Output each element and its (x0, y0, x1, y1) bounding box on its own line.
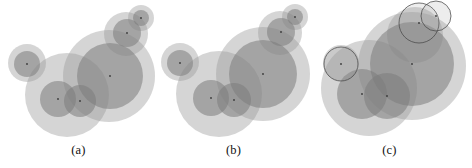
panel-c: (c) (311, 0, 468, 168)
disk-center-dot (26, 63, 28, 65)
disk-center-dot (210, 97, 212, 99)
panel-a-caption: (a) (0, 140, 157, 160)
panel-b-caption: (b) (155, 140, 312, 160)
panel-c-plot (311, 0, 468, 140)
disk-center-dot (262, 73, 264, 75)
disk-center-dot (280, 31, 282, 33)
disk-center-dot (418, 22, 420, 24)
panel-b: (b) (155, 0, 312, 168)
disk-center-dot (140, 17, 142, 19)
disk-center-dot (233, 99, 235, 101)
disk-center-dot (340, 63, 342, 65)
panel-c-caption: (c) (311, 140, 468, 160)
disk-center-dot (294, 16, 296, 18)
disk-center-dot (386, 95, 388, 97)
panel-a: (a) (0, 0, 157, 168)
panel-b-svg (155, 0, 312, 140)
panel-a-svg (0, 0, 157, 140)
figure-canvas: (a) (b) (c) (0, 0, 472, 168)
disk-center-dot (361, 93, 363, 95)
disk-center-dot (109, 75, 111, 77)
disk-center-dot (435, 15, 437, 17)
panel-b-plot (155, 0, 312, 140)
disk-center-dot (79, 100, 81, 102)
panel-a-plot (0, 0, 157, 140)
disk-center-dot (411, 63, 413, 65)
disk-center-dot (179, 62, 181, 64)
panel-c-svg (311, 0, 468, 140)
disk-center-dot (126, 32, 128, 34)
disk-center-dot (57, 98, 59, 100)
